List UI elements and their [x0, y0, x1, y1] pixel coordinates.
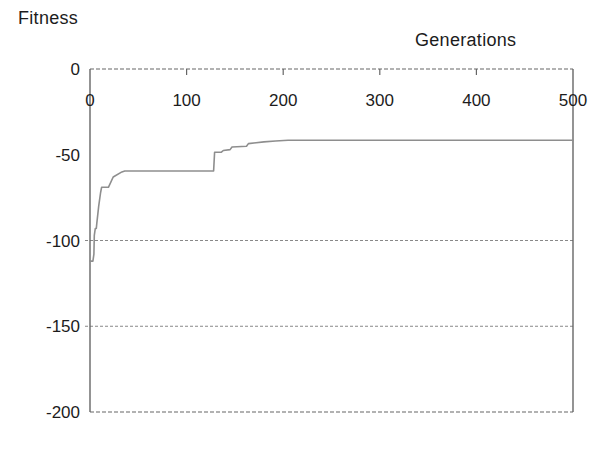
fitness-curve: [90, 140, 573, 261]
y-tick-label: 0: [71, 60, 80, 79]
fitness-line-chart: 01002003004005000-50-100-150-200: [0, 0, 612, 457]
x-tick-label: 0: [85, 91, 94, 110]
y-tick-label: -100: [46, 232, 80, 251]
x-tick-label: 200: [269, 91, 297, 110]
x-axis-title: Generations: [415, 30, 516, 51]
y-tick-label: -150: [46, 317, 80, 336]
y-axis-title: Fitness: [18, 8, 78, 29]
x-tick-label: 400: [462, 91, 490, 110]
y-tick-label: -200: [46, 403, 80, 422]
fitness-generations-figure: 01002003004005000-50-100-150-200 Fitness…: [0, 0, 612, 457]
y-tick-label: -50: [55, 146, 80, 165]
x-tick-label: 300: [366, 91, 394, 110]
x-tick-label: 500: [559, 91, 587, 110]
x-tick-label: 100: [172, 91, 200, 110]
